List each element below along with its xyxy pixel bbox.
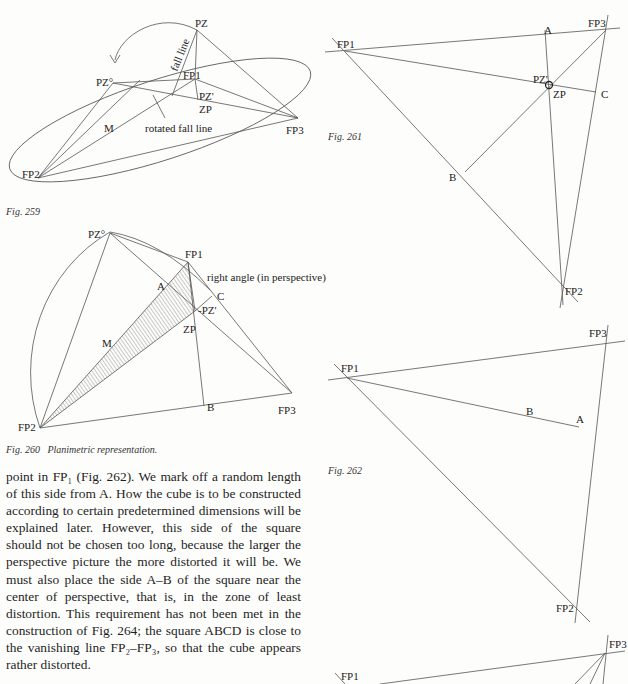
- label-pz-prime: PZ': [199, 90, 214, 102]
- label-a: A: [544, 24, 552, 36]
- label-a: A: [576, 413, 584, 425]
- figure-263-partial: FP3 FP1: [335, 635, 627, 684]
- figure-262: FP1 FP3 B A FP2: [328, 325, 625, 623]
- label-pz0: PZ°: [88, 228, 105, 240]
- label-fp1: FP1: [183, 69, 201, 81]
- label-fp1: FP1: [185, 248, 203, 260]
- label-fp3: FP3: [286, 124, 304, 136]
- label-fp1: FP1: [341, 670, 359, 682]
- label-rotated-fall-line: rotated fall line: [145, 122, 212, 134]
- label-fp2: FP2: [18, 421, 36, 433]
- caption-fig-261: Fig. 261: [328, 131, 362, 142]
- label-c: C: [217, 290, 224, 302]
- label-zp: ZP: [183, 323, 196, 335]
- label-pz: PZ: [195, 17, 208, 29]
- body-paragraph: point in FP₁ (Fig. 262). We mark off a r…: [6, 468, 301, 673]
- label-fp3: FP3: [589, 327, 607, 339]
- label-zp: ZP: [199, 103, 212, 115]
- caption-fig-259: Fig. 259: [6, 206, 40, 217]
- label-a: A: [157, 280, 165, 292]
- rotation-ellipse: [0, 33, 323, 207]
- label-fp2: FP2: [565, 285, 583, 297]
- label-m: M: [102, 337, 112, 349]
- caption-fig-262: Fig. 262: [328, 465, 362, 476]
- label-m: M: [104, 122, 114, 134]
- label-fp1: FP1: [337, 38, 355, 50]
- figure-260: PZ° FP1 A C -PZ' ZP M B FP3 FP2 right an…: [18, 228, 326, 433]
- label-c: C: [601, 88, 608, 100]
- label-right-angle: right angle (in perspective): [207, 271, 326, 284]
- label-pz0: PZ°: [96, 76, 113, 88]
- body-text: point in FP₁ (Fig. 262). We mark off a r…: [6, 468, 301, 673]
- label-b: B: [526, 405, 533, 417]
- label-pz-prime: -PZ': [198, 304, 217, 316]
- label-fp3: FP3: [609, 638, 627, 650]
- label-b: B: [449, 171, 456, 183]
- label-fp1: FP1: [341, 362, 359, 374]
- label-fp3: FP3: [588, 17, 606, 29]
- figure-259: PZ PZ° FP1 PZ' ZP M FP3 FP2 fall line ro…: [0, 17, 323, 207]
- label-fp2: FP2: [22, 168, 40, 180]
- label-pz-prime: PZ': [533, 73, 548, 85]
- label-b: B: [207, 401, 214, 413]
- figure-261: FP1 A FP3 PZ' ZP C B FP2: [325, 15, 620, 308]
- caption-fig-260: Fig. 260 Planimetric representation.: [6, 444, 157, 455]
- label-fp3: FP3: [278, 404, 296, 416]
- label-fp2: FP2: [556, 602, 574, 614]
- label-zp: ZP: [553, 88, 566, 100]
